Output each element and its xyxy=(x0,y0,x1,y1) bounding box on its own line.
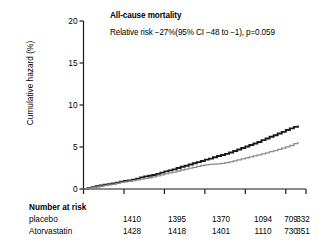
y-tick-label: 15 xyxy=(56,59,78,67)
risk-cell: 1370 xyxy=(204,215,238,224)
risk-row-label-placebo: placebo xyxy=(29,215,58,224)
series-lines xyxy=(84,126,298,189)
risk-cell: 1410 xyxy=(115,215,149,224)
risk-cell: 351 xyxy=(286,227,318,236)
risk-cell: 1428 xyxy=(115,227,149,236)
risk-cell: 332 xyxy=(286,215,318,224)
risk-row-label-atorvastatin: Atorvastatin xyxy=(29,227,72,236)
cumulative-hazard-chart: All-cause mortality Relative risk −27%(9… xyxy=(0,0,318,246)
x-axis-ticks xyxy=(84,189,307,194)
y-tick-label: 5 xyxy=(56,143,78,151)
series-line-placebo xyxy=(84,126,298,189)
chart-annotation: Relative risk −27%(95% CI −48 to −1), p=… xyxy=(110,28,275,37)
risk-table-heading: Number at risk xyxy=(29,203,86,212)
y-tick-label: 0 xyxy=(56,185,78,193)
risk-cell: 1401 xyxy=(204,227,238,236)
risk-cell: 1418 xyxy=(160,227,194,236)
number-at-risk-table: Number at risk placebo141013951370109470… xyxy=(0,200,318,246)
y-tick-label: 20 xyxy=(56,17,78,25)
risk-cell: 1395 xyxy=(160,215,194,224)
chart-title: All-cause mortality xyxy=(110,11,181,20)
y-axis-title: Cumulative hazard (%) xyxy=(25,13,35,153)
y-tick-label: 10 xyxy=(56,101,78,109)
